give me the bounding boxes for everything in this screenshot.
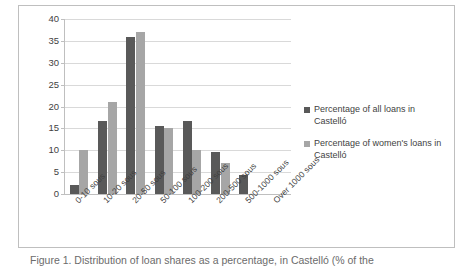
y-tick-label-10: 10 bbox=[33, 146, 59, 156]
figure-frame: 4035302520151050 0-10 sous10-20 sous20-5… bbox=[18, 5, 455, 248]
chart-legend: Percentage of all loans in CastellóPerce… bbox=[304, 104, 450, 172]
bar-group bbox=[150, 19, 178, 194]
y-tick-label-35: 35 bbox=[33, 36, 59, 46]
y-tick-mark-30 bbox=[61, 63, 65, 64]
y-tick-mark-35 bbox=[61, 41, 65, 42]
x-axis-tick-labels: 0-10 sous10-20 sous20-50 sous50-100 sous… bbox=[65, 196, 291, 246]
y-tick-label-40: 40 bbox=[33, 14, 59, 24]
legend-label: Percentage of all loans in Castelló bbox=[314, 104, 450, 127]
y-tick-label-25: 25 bbox=[33, 80, 59, 90]
legend-swatch-icon bbox=[304, 107, 310, 113]
y-tick-mark-40 bbox=[61, 19, 65, 20]
y-tick-mark-5 bbox=[61, 172, 65, 173]
bar-group bbox=[65, 19, 93, 194]
y-tick-label-0: 0 bbox=[33, 189, 59, 199]
y-tick-mark-10 bbox=[61, 150, 65, 151]
bar-group bbox=[122, 19, 150, 194]
legend-label: Percentage of women's loans in Castelló bbox=[314, 138, 450, 161]
figure-caption: Figure 1. Distribution of loan shares as… bbox=[30, 254, 450, 267]
y-tick-mark-20 bbox=[61, 107, 65, 108]
bar-group bbox=[93, 19, 121, 194]
y-tick-mark-15 bbox=[61, 128, 65, 129]
legend-swatch-icon bbox=[304, 141, 310, 147]
y-tick-mark-0 bbox=[61, 194, 65, 195]
legend-item[interactable]: Percentage of all loans in Castelló bbox=[304, 104, 450, 127]
legend-item[interactable]: Percentage of women's loans in Castelló bbox=[304, 138, 450, 161]
y-tick-label-15: 15 bbox=[33, 124, 59, 134]
y-axis-tick-labels: 4035302520151050 bbox=[27, 19, 59, 194]
y-tick-label-20: 20 bbox=[33, 102, 59, 112]
y-tick-label-5: 5 bbox=[33, 167, 59, 177]
y-tick-label-30: 30 bbox=[33, 58, 59, 68]
bar bbox=[108, 102, 117, 194]
bar bbox=[136, 32, 145, 194]
y-tick-mark-25 bbox=[61, 85, 65, 86]
